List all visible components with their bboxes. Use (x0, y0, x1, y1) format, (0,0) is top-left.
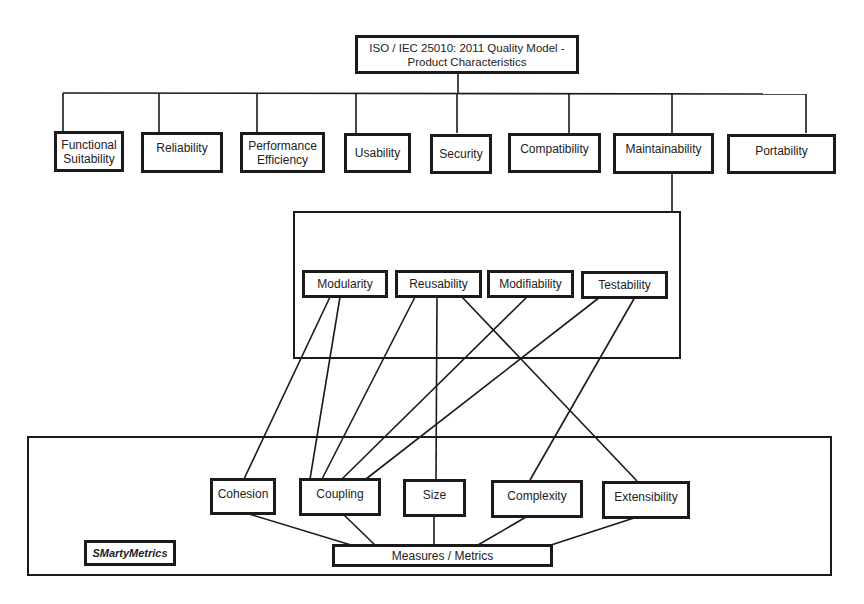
characteristic-label: Usability (355, 146, 400, 160)
metric-size: Size (403, 479, 466, 517)
characteristic-security: Security (430, 134, 492, 174)
subcharacteristic-label: Reusability (409, 277, 468, 291)
characteristic-label: Performance Efficiency (248, 139, 317, 167)
metric-extensibility: Extensibility (602, 481, 690, 519)
subcharacteristic-label: Modularity (317, 277, 372, 291)
characteristic-compatibility: Compatibility (508, 133, 601, 173)
characteristic-label: Portability (755, 144, 808, 158)
characteristic-label: Compatibility (520, 142, 589, 156)
subcharacteristic-testability: Testability (581, 271, 668, 299)
subcharacteristic-label: Testability (598, 278, 651, 292)
characteristic-label: Functional Suitability (61, 138, 116, 166)
metric-label: Cohesion (218, 487, 269, 501)
metric-label: Extensibility (614, 490, 677, 504)
characteristic-maintainability: Maintainability (613, 133, 714, 174)
characteristic-portability: Portability (727, 134, 836, 174)
subcharacteristic-label: Modifiability (499, 277, 562, 291)
characteristic-functional-suitability: Functional Suitability (54, 131, 124, 172)
measures-label: Measures / Metrics (392, 549, 493, 563)
metric-coupling: Coupling (299, 478, 381, 516)
subcharacteristic-modularity: Modularity (302, 270, 388, 298)
root-label: ISO / IEC 25010: 2011 Quality Model - Pr… (369, 41, 564, 69)
metric-cohesion: Cohesion (210, 478, 276, 515)
metric-complexity: Complexity (491, 480, 583, 518)
characteristic-usability: Usability (344, 133, 411, 173)
smartymetrics-label-box: SMartyMetrics (84, 540, 176, 566)
metric-label: Complexity (507, 489, 566, 503)
subcharacteristic-modifiability: Modifiability (487, 270, 574, 298)
characteristic-label: Security (439, 147, 482, 161)
characteristic-label: Reliability (156, 141, 207, 155)
framework-label: SMartyMetrics (92, 546, 167, 560)
characteristic-label: Maintainability (625, 142, 701, 156)
metric-label: Size (423, 488, 446, 502)
characteristic-performance-efficiency: Performance Efficiency (240, 132, 325, 173)
metric-label: Coupling (316, 487, 363, 501)
characteristic-reliability: Reliability (141, 132, 223, 173)
root-quality-model-box: ISO / IEC 25010: 2011 Quality Model - Pr… (355, 35, 579, 74)
measures-metrics-box: Measures / Metrics (332, 544, 553, 567)
subcharacteristic-reusability: Reusability (395, 270, 482, 298)
